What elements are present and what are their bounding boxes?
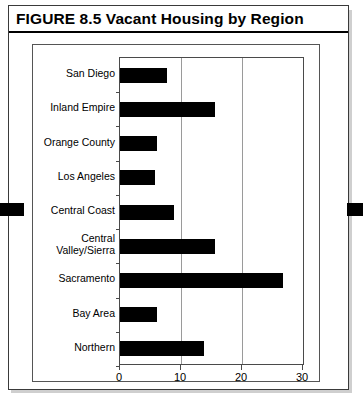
x-tick-label: 0 — [116, 371, 122, 383]
category-label: Inland Empire — [23, 102, 119, 114]
category-label: Northern — [23, 342, 119, 354]
bar-row — [120, 239, 215, 254]
x-tick-10 — [180, 365, 181, 370]
bar — [120, 205, 174, 220]
page-edge-notch-left — [0, 203, 24, 216]
figure-title-bar: FIGURE 8.5 Vacant Housing by Region — [9, 6, 348, 33]
bar — [120, 68, 167, 83]
bar-row — [120, 102, 215, 117]
bar — [120, 273, 283, 288]
category-label: CentralValley/Sierra — [23, 233, 119, 256]
category-label-line: Central — [23, 233, 115, 245]
plot-area — [119, 57, 304, 365]
x-tick-20 — [241, 365, 242, 370]
bar-row — [120, 307, 157, 322]
category-axis-labels: San DiegoInland EmpireOrange CountyLos A… — [33, 45, 119, 353]
page-shadow-bottom — [11, 390, 352, 393]
category-label-line: Valley/Sierra — [23, 245, 115, 257]
bar-row — [120, 68, 167, 83]
x-tick-30 — [302, 365, 303, 370]
bar-row — [120, 273, 283, 288]
bar — [120, 136, 157, 151]
bar-row — [120, 136, 157, 151]
bar-row — [120, 341, 204, 356]
bar — [120, 102, 215, 117]
page-shadow-right — [349, 10, 352, 393]
bar — [120, 239, 215, 254]
x-tick-label: 10 — [174, 371, 186, 383]
bar-row — [120, 205, 174, 220]
page-edge-notch-right — [347, 203, 363, 216]
x-tick-0 — [119, 365, 120, 370]
bar-row — [120, 170, 155, 185]
category-label: Los Angeles — [23, 171, 119, 183]
category-label: Central Coast — [23, 205, 119, 217]
figure-title: FIGURE 8.5 Vacant Housing by Region — [16, 10, 304, 28]
x-tick-label: 30 — [296, 371, 308, 383]
bar — [120, 307, 157, 322]
category-label: Orange County — [23, 137, 119, 149]
category-label: Sacramento — [23, 273, 119, 285]
x-tick-label: 20 — [235, 371, 247, 383]
category-label: Bay Area — [23, 308, 119, 320]
bar — [120, 341, 204, 356]
bar — [120, 170, 155, 185]
chart-panel: San DiegoInland EmpireOrange CountyLos A… — [32, 44, 320, 382]
bar-series — [120, 58, 303, 364]
category-label: San Diego — [23, 68, 119, 80]
